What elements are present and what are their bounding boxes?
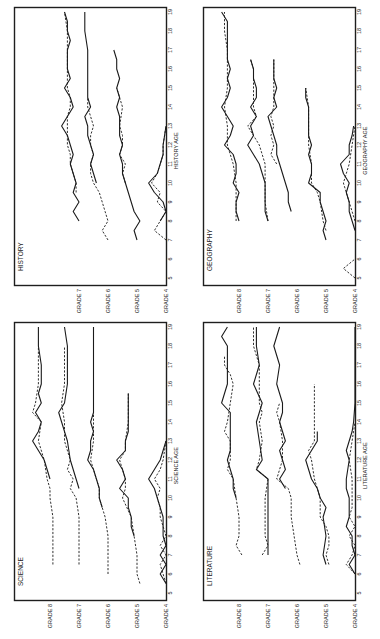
- age-tick-label: 8: [356, 534, 362, 537]
- grade-tick-label: GRADE 4: [352, 604, 358, 628]
- grade-tick-label: GRADE 6: [294, 604, 300, 628]
- age-tick-label: 14: [356, 419, 362, 425]
- age-tick-label: 6: [356, 572, 362, 575]
- series-line-dashed: [277, 403, 300, 565]
- grade-tick-label: GRADE 7: [265, 604, 271, 628]
- grade-tick-label: GRADE 5: [323, 604, 329, 628]
- grade-tick-label: GRADE 8: [236, 604, 242, 628]
- chart-literature: LITERATURE5678910111213141516171819LITER…: [0, 0, 380, 639]
- age-tick-label: 7: [356, 553, 362, 556]
- series-line-solid: [274, 327, 286, 489]
- age-tick-label: 9: [356, 515, 362, 518]
- age-tick-label: 19: [356, 324, 362, 330]
- series-line-solid: [254, 327, 269, 555]
- age-tick-label: 18: [356, 343, 362, 349]
- panel-title: LITERATURE: [206, 545, 213, 586]
- age-axis-label: LITERATURE AGE: [362, 442, 368, 489]
- series-line-solid: [306, 432, 326, 565]
- age-tick-label: 17: [356, 362, 362, 368]
- series-line-dashed: [254, 327, 269, 555]
- age-tick-label: 10: [356, 495, 362, 501]
- age-tick-label: 16: [356, 381, 362, 387]
- age-tick-label: 5: [356, 591, 362, 594]
- age-tick-label: 15: [356, 400, 362, 406]
